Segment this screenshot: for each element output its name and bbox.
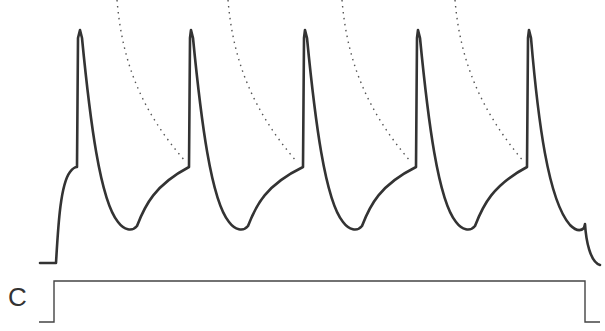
voltage-trace (40, 30, 600, 265)
stimulus-label: C (8, 284, 27, 310)
stimulus-step-trace (39, 281, 600, 322)
voltage-trace-figure (0, 0, 605, 331)
dotted-guide-curves (117, 0, 524, 162)
